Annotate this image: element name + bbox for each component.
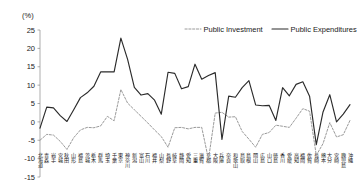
x-axis-tick-label: 山梨: [159, 152, 164, 164]
x-axis-tick-label: 静岡: [179, 152, 184, 164]
x-axis-tick-label: 佐賀: [307, 152, 312, 164]
x-axis-tick-label: 埼玉: [105, 152, 110, 163]
series-line-public-investment: [40, 90, 350, 160]
x-axis-tick-label: 青森: [44, 152, 49, 164]
x-axis-tick-label: 愛媛: [287, 152, 292, 164]
y-axis-tick-label: 25: [27, 26, 35, 35]
public-finance-line-chart: 2520151050-5-10-15 北海道青森岩手宮城秋田山形福島茨城栃木群馬…: [0, 0, 358, 192]
x-axis-tick-label: 愛知: [186, 152, 191, 164]
chart-canvas: 2520151050-5-10-15 北海道青森岩手宮城秋田山形福島茨城栃木群馬…: [0, 0, 358, 192]
x-axis-tick-label: 鳥取: [240, 152, 245, 164]
x-axis-tick-label: 熊本: [321, 152, 326, 164]
x-axis-tick-label: 岩手: [51, 152, 56, 164]
x-axis-tick-label: 神奈川: [125, 152, 130, 168]
chart-legend: Public InvestmentPublic Expenditures: [185, 25, 357, 34]
y-axis-tick-label: -5: [28, 136, 35, 145]
x-axis-tick-label: 奈良: [226, 152, 231, 164]
y-axis-tick-label: -10: [24, 154, 35, 163]
x-axis-tick-label: 宮崎: [334, 152, 339, 164]
x-axis-tick-label: 富山: [139, 152, 144, 164]
x-axis-tick-label: 長野: [166, 152, 171, 164]
x-axis-tick-label: 大分: [327, 152, 332, 164]
x-axis-tick-label: 岐阜: [172, 152, 177, 164]
series-line-public-expenditures: [40, 38, 350, 145]
y-axis-unit-label: (%): [22, 11, 34, 20]
x-axis-tick-label: 島根: [246, 152, 251, 164]
x-axis-tick-label: 茨城: [85, 152, 90, 164]
x-axis-tick-label: 徳島: [273, 152, 278, 164]
y-axis-tick-label: 10: [27, 81, 35, 90]
legend-label-public-investment: Public Investment: [204, 25, 264, 34]
x-axis-tick-label: 東京: [118, 152, 123, 164]
legend-label-public-expenditures: Public Expenditures: [291, 25, 358, 34]
x-axis-tick-label: 群馬: [98, 152, 103, 164]
y-axis-tick-label: 5: [31, 99, 35, 108]
x-axis-tick-label: 兵庫: [219, 152, 224, 164]
x-axis-tick-label: 沖縄: [348, 152, 353, 163]
x-axis-tick-label: 福島: [78, 152, 83, 164]
x-axis-tick-label: 千葉: [112, 152, 117, 164]
x-axis-tick-label: 香川: [280, 152, 285, 163]
y-axis-tick-label: 15: [27, 62, 35, 71]
x-axis-tick-label: 山形: [71, 152, 76, 164]
x-axis-tick-label: 福岡: [300, 152, 305, 164]
x-axis-tick-label: 和歌山: [233, 152, 238, 169]
x-axis-tick-label: 岡山: [253, 152, 258, 164]
x-axis-tick-label: 新潟: [132, 152, 137, 164]
x-axis-tick-label: 鹿児島: [341, 152, 346, 169]
x-axis-tick-label: 高知: [294, 152, 299, 164]
x-axis-tick-label: 三重: [193, 152, 198, 163]
x-axis-tick-label: 大阪: [213, 152, 218, 164]
series-layer: [40, 38, 350, 159]
x-axis-tick-label: 秋田: [64, 152, 69, 164]
x-axis-tick-label: 福井: [152, 152, 157, 164]
x-axis-tick-label: 栃木: [91, 152, 96, 164]
x-axis-tick-label: 広島: [260, 152, 265, 164]
x-axis-tick-label: 山口: [267, 152, 272, 164]
x-axis-tick-label: 滋賀: [199, 152, 204, 164]
x-axis-tick-label: 石川: [145, 152, 150, 163]
x-axis-tick-label: 宮城: [58, 152, 63, 164]
y-axis-tick-label: -15: [24, 173, 35, 182]
x-axis: 北海道青森岩手宮城秋田山形福島茨城栃木群馬埼玉千葉東京神奈川新潟富山石川福井山梨…: [38, 152, 353, 169]
x-axis-tick-label: 北海道: [38, 152, 43, 169]
y-axis-tick-label: 0: [31, 118, 35, 127]
y-axis-tick-label: 20: [27, 44, 35, 53]
